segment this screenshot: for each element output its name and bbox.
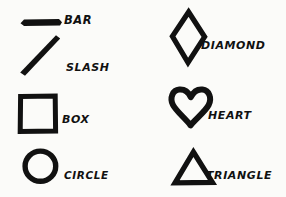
slash-label: SLASH — [66, 62, 110, 73]
circle-label: CIRCLE — [64, 170, 109, 181]
bar-icon[interactable] — [19, 17, 63, 27]
diamond-label: DIAMOND — [201, 40, 266, 51]
box-label: BOX — [62, 114, 90, 125]
bar-label: BAR — [64, 15, 92, 27]
triangle-label: TRIANGLE — [206, 170, 272, 181]
shape-reference-sheet: BAR SLASH BOX CIRCLE DIAMOND HEART — [0, 0, 286, 197]
circle-icon[interactable] — [22, 148, 59, 185]
slash-icon[interactable] — [18, 34, 62, 78]
heart-icon[interactable] — [168, 86, 214, 129]
heart-label: HEART — [208, 110, 252, 121]
diamond-icon[interactable] — [169, 9, 209, 66]
box-icon[interactable] — [18, 94, 58, 134]
